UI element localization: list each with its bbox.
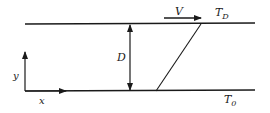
top-plate-line [25, 23, 255, 24]
bottom-temperature-label: T0 [224, 93, 236, 108]
y-axis-label: y [12, 70, 19, 81]
gap-label: D [116, 51, 126, 64]
velocity-label: V [175, 5, 184, 18]
velocity-profile-line [156, 24, 201, 91]
x-axis-label: x [39, 95, 45, 106]
couette-flow-diagram: V TD D y x T0 [0, 0, 270, 113]
diagram-svg: V TD D y x T0 [0, 0, 270, 113]
top-temperature-label: TD [215, 6, 229, 21]
